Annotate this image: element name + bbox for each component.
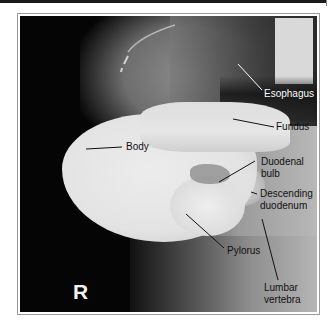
right-side-marker: R [73, 280, 88, 304]
label-pylorus: Pylorus [227, 245, 260, 257]
label-lumbar-vertebra-1: Lumbar [264, 282, 298, 294]
label-descending-duodenum-2: duodenum [260, 200, 307, 212]
label-body: Body [126, 141, 149, 153]
label-esophagus: Esophagus [264, 88, 314, 100]
label-duodenal-bulb-1: Duodenal [261, 156, 304, 168]
label-descending-duodenum-1: Descending [260, 188, 313, 200]
label-duodenal-bulb-2: bulb [261, 168, 280, 180]
label-lumbar-vertebra-2: vertebra [264, 294, 301, 306]
label-fundus: Fundus [276, 121, 309, 133]
